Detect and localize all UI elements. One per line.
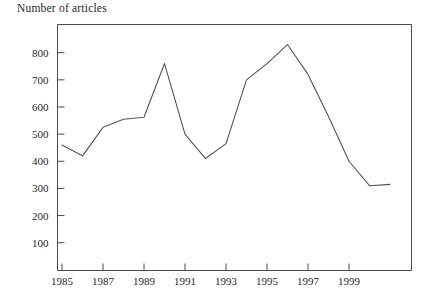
y-axis-tick-marks xyxy=(58,53,65,243)
axis-frame xyxy=(58,25,412,271)
x-tick-label: 1997 xyxy=(297,275,320,287)
y-axis-tick-labels: 100200300400500600700800 xyxy=(32,47,49,249)
x-tick-label: 1995 xyxy=(256,275,279,287)
y-tick-label: 100 xyxy=(32,237,49,249)
x-tick-label: 1985 xyxy=(51,275,74,287)
y-tick-label: 700 xyxy=(32,74,49,86)
x-tick-label: 1987 xyxy=(92,275,115,287)
data-series-line xyxy=(62,45,390,186)
x-axis-tick-labels: 19851987198919911993199519971999 xyxy=(51,275,361,287)
line-chart-plot: 100200300400500600700800 198519871989199… xyxy=(0,0,427,305)
x-tick-label: 1991 xyxy=(174,275,196,287)
y-tick-label: 500 xyxy=(32,128,49,140)
chart-figure: Number of articles 100200300400500600700… xyxy=(0,0,427,305)
x-tick-label: 1999 xyxy=(338,275,361,287)
y-tick-label: 400 xyxy=(32,155,49,167)
y-tick-label: 600 xyxy=(32,101,49,113)
y-tick-label: 800 xyxy=(32,47,49,59)
y-tick-label: 200 xyxy=(32,210,49,222)
y-tick-label: 300 xyxy=(32,182,49,194)
x-axis-tick-marks xyxy=(62,264,349,271)
x-tick-label: 1993 xyxy=(215,275,238,287)
x-tick-label: 1989 xyxy=(133,275,156,287)
